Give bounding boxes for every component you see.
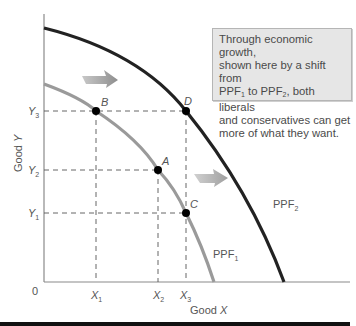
shift-arrow-upper-icon: [82, 70, 118, 88]
point-d-label: D: [184, 95, 192, 107]
annotation-box: Through economic growth, shown here by a…: [212, 28, 352, 101]
point-a: [154, 166, 162, 174]
x-tick-2: X2: [152, 289, 164, 303]
origin-label: 0: [32, 285, 38, 297]
point-d: [182, 107, 190, 115]
note-line-3: PPF1 to PPF2, both liberals: [219, 85, 351, 114]
ppf1-label: PPF1: [213, 248, 238, 262]
ppf2-label: PPF2: [273, 198, 298, 212]
y-tick-2: Y2: [28, 164, 39, 178]
shift-arrow-lower-icon: [194, 169, 228, 187]
y-tick-3: Y3: [28, 105, 39, 119]
note-line-2: shown here by a shift from: [219, 59, 351, 85]
y-tick-1: Y1: [28, 207, 39, 221]
point-b: [92, 107, 100, 115]
y-axis-title: Good Y: [12, 134, 24, 172]
x-tick-1: X1: [90, 289, 102, 303]
bottom-border: [0, 322, 350, 326]
guide-lines: [44, 111, 186, 282]
x-tick-3: X3: [179, 289, 191, 303]
point-a-label: A: [161, 155, 169, 167]
note-line-4: and conservatives can get: [219, 114, 351, 127]
point-c: [182, 209, 190, 217]
note-line-5: more of what they want.: [219, 127, 351, 140]
note-line-1: Through economic growth,: [219, 33, 351, 59]
x-axis-title: Good X: [190, 304, 228, 316]
point-b-label: B: [101, 96, 108, 108]
point-c-label: C: [190, 198, 198, 210]
